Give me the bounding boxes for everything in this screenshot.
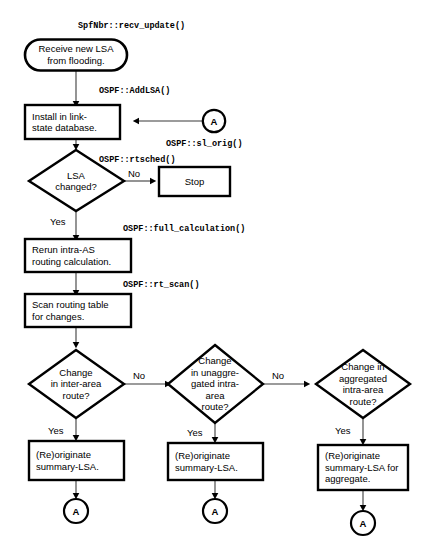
node-reoriginate-3-shape[interactable] bbox=[318, 445, 408, 490]
edge-label-inter-area-yes: Yes bbox=[48, 425, 64, 436]
node-reoriginate-1-shape[interactable] bbox=[29, 441, 124, 480]
code-label-rtsched: OSPF::rtsched() bbox=[99, 155, 176, 165]
node-connector-a-top-label: A bbox=[203, 110, 225, 132]
code-label-full-calculation: OSPF::full_calculation() bbox=[123, 224, 245, 234]
code-label-rt-scan: OSPF::rt_scan() bbox=[123, 280, 200, 290]
node-scan-routing-table-shape[interactable] bbox=[25, 294, 131, 327]
node-receive-lsa-shape[interactable] bbox=[25, 40, 127, 71]
node-stop-shape[interactable] bbox=[159, 167, 230, 196]
flowchart-canvas: SpfNbr::recv_update() OSPF::AddLSA() OSP… bbox=[0, 0, 438, 557]
node-change-aggregated-shape[interactable] bbox=[316, 350, 410, 418]
node-connector-a-2-label: A bbox=[204, 500, 226, 522]
node-connector-a-3-label: A bbox=[352, 512, 374, 534]
node-change-inter-area-shape[interactable] bbox=[29, 350, 124, 418]
node-install-db-shape[interactable] bbox=[25, 105, 120, 139]
code-label-add-lsa: OSPF::AddLSA() bbox=[99, 86, 170, 96]
edge-label-unaggregated-no: No bbox=[272, 370, 284, 381]
edge-label-lsa-changed-no: No bbox=[128, 168, 140, 179]
edge-label-unaggregated-yes: Yes bbox=[187, 427, 203, 438]
edge-label-inter-area-no: No bbox=[133, 370, 145, 381]
flowchart-shapes-and-connectors bbox=[0, 0, 438, 557]
code-label-sl-orig: OSPF::sl_orig() bbox=[166, 139, 243, 149]
node-connector-a-1-label: A bbox=[65, 500, 87, 522]
node-rerun-intra-as-shape[interactable] bbox=[25, 239, 131, 272]
node-change-unaggregated-shape[interactable] bbox=[168, 345, 263, 423]
node-reoriginate-2-shape[interactable] bbox=[168, 443, 263, 480]
code-label-recv-update: SpfNbr::recv_update() bbox=[78, 21, 185, 31]
edge-label-lsa-changed-yes: Yes bbox=[50, 216, 66, 227]
edge-label-aggregated-yes: Yes bbox=[335, 425, 351, 436]
